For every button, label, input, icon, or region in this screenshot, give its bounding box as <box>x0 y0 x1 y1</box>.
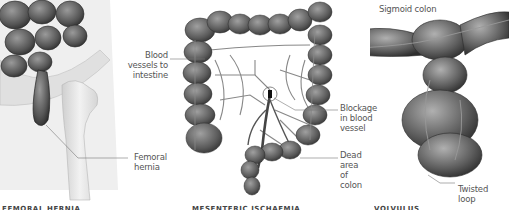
caption-volvulus: VOLVULUS <box>374 203 420 210</box>
label-line: Sigmoid colon <box>379 4 436 14</box>
caption-mesenteric: MESENTERIC ISCHAEMIA <box>192 203 300 210</box>
femoral-hernia-illustration <box>0 0 170 210</box>
panel-femoral-hernia: Femoral hernia FEMORAL HERNIA <box>0 0 170 210</box>
label-femoral-hernia: Femoral hernia <box>134 152 167 172</box>
label-line: of colon <box>340 170 370 190</box>
label-line: intestine <box>124 70 168 80</box>
label-twisted-loop: Twisted loop <box>458 184 488 204</box>
label-sigmoid-colon: Sigmoid colon <box>379 4 436 14</box>
label-line: Blood <box>124 50 168 60</box>
label-blood-vessels: Blood vessels to intestine <box>124 50 168 80</box>
label-dead-area: Dead area of colon <box>340 150 370 190</box>
panel-volvulus: Sigmoid colon Twisted loop VOLVULUS <box>370 0 509 210</box>
label-line: Twisted <box>458 184 488 194</box>
label-line: hernia <box>134 162 167 172</box>
label-line: Femoral <box>134 152 167 162</box>
caption-femoral-hernia: FEMORAL HERNIA <box>2 203 81 210</box>
volvulus-illustration <box>370 0 509 210</box>
label-line: loop <box>458 194 488 204</box>
panel-mesenteric-ischaemia: Blood vessels to intestine Blockage in b… <box>170 0 370 210</box>
label-line: Dead area <box>340 150 370 170</box>
label-line: vessels to <box>124 60 168 70</box>
